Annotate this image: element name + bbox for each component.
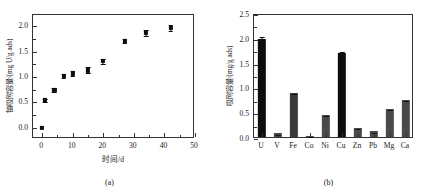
panel-b-error-cap (340, 52, 345, 53)
panel-b-y-tick-label: 2.0 (219, 34, 249, 43)
panel-a-error-cap (122, 43, 127, 44)
panel-b-y-tick (254, 15, 258, 16)
panel-a-x-tick (134, 133, 135, 137)
panel-a-x-tick (103, 133, 104, 137)
panel-b-category-label: Pb (369, 141, 377, 150)
panel-a-y-minor-tick (33, 115, 36, 116)
panel-b-y-minor-tick (254, 102, 257, 103)
panel-a-x-minor-tick (88, 135, 89, 138)
panel-b-bar (258, 39, 266, 137)
panel-a-y-minor-tick (33, 64, 36, 65)
panel-a-y-tick-label: 1.0 (0, 72, 28, 81)
panel-a-error-cap (144, 36, 149, 37)
panel-b-error-cap (292, 94, 297, 95)
panel-b-error-cap (324, 116, 329, 117)
panel-b-y-tick-label: 2.5 (219, 10, 249, 19)
panel-a-y-tick (33, 77, 37, 78)
panel-a-error-cap (101, 64, 106, 65)
panel-b-error-cap (404, 101, 409, 102)
panel-b-error-cap (356, 129, 361, 130)
panel-b-x-tick (262, 133, 263, 137)
panel-b-category-label: Ca (401, 141, 409, 150)
panel-a-y-tick-label: 2.0 (0, 21, 28, 30)
panel-b-y-minor-tick (254, 27, 257, 28)
panel-b-x-tick (294, 133, 295, 137)
panel-a-x-axis-title: 时间/d (32, 153, 194, 164)
panel-a-error-cap (168, 31, 173, 32)
panel-a-data-point (101, 59, 105, 63)
panel-b-category-label: Ni (321, 141, 329, 150)
panel-b-y-minor-tick (254, 127, 257, 128)
panel-a-x-tick-label: 0 (39, 141, 43, 150)
panel-a-y-tick-label: 0.0 (0, 122, 28, 131)
panel-b-error-cap (260, 37, 265, 38)
panel-b-x-tick (406, 133, 407, 137)
panel-a-data-point (144, 31, 148, 35)
panel-a-x-tick-label: 10 (68, 141, 76, 150)
panel-a-data-point (61, 74, 65, 78)
panel-a-y-minor-tick (33, 90, 36, 91)
panel-b-y-tick-label: 0.5 (219, 109, 249, 118)
panel-b-y-tick-label: 1.5 (219, 59, 249, 68)
panel-b-plot-area (253, 14, 413, 138)
panel-a-data-point (40, 126, 44, 130)
panel-b-x-tick (326, 133, 327, 137)
panel-b-y-minor-tick (254, 77, 257, 78)
panel-a-data-point (123, 39, 127, 43)
panel-b-x-tick (390, 133, 391, 137)
panel-b-error-cap (388, 110, 393, 111)
panel-b-category-label: Mg (384, 141, 395, 150)
panel-a-x-tick-label: 40 (160, 141, 168, 150)
panel-a-x-tick (42, 133, 43, 137)
panel-a-error-cap (86, 73, 91, 74)
panel-b-error-cap (308, 137, 313, 138)
panel-b-bar (402, 100, 410, 137)
figure-container: 铀吸附容量/(mg U/g ads) 时间/d (a) 0.00.51.01.5… (0, 0, 438, 191)
panel-b-x-tick (374, 133, 375, 137)
panel-a-data-point (86, 68, 90, 72)
panel-b-y-minor-tick (254, 52, 257, 53)
panel-a-y-tick (33, 102, 37, 103)
panel-b-bar (338, 53, 346, 137)
panel-a-x-minor-tick (119, 135, 120, 138)
panel-a-x-tick-label: 30 (129, 141, 137, 150)
panel-b-category-label: Fe (289, 141, 297, 150)
panel-a-x-minor-tick (180, 135, 181, 138)
panel-a-x-tick-label: 50 (190, 141, 198, 150)
panel-a-data-point (71, 71, 75, 75)
panel-b-x-tick (358, 133, 359, 137)
panel-b-y-tick-label: 1.0 (219, 84, 249, 93)
panel-b-category-label: Co (305, 141, 314, 150)
panel-b-x-tick (342, 133, 343, 137)
panel-b-caption: (b) (219, 178, 438, 187)
panel-b-bar (290, 93, 298, 137)
panel-a-x-tick-label: 20 (99, 141, 107, 150)
panel-b-category-label: Zn (353, 141, 361, 150)
panel-a-data-point (43, 98, 47, 102)
panel-a-y-tick (33, 26, 37, 27)
panel-b-x-tick (278, 133, 279, 137)
panel-a-x-minor-tick (149, 135, 150, 138)
panel-a: 铀吸附容量/(mg U/g ads) 时间/d (a) 0.00.51.01.5… (0, 0, 219, 191)
panel-b-y-tick (254, 139, 258, 140)
panel-b-y-tick-label: 0.0 (219, 134, 249, 143)
panel-a-data-point (52, 88, 56, 92)
panel-a-x-tick (73, 133, 74, 137)
panel-a-x-tick (195, 133, 196, 137)
panel-a-data-point (168, 26, 172, 30)
panel-b-category-label: V (274, 141, 279, 150)
panel-a-y-tick (33, 52, 37, 53)
panel-a-caption: (a) (0, 178, 219, 187)
panel-b-x-tick (310, 133, 311, 137)
panel-a-x-minor-tick (57, 135, 58, 138)
panel-a-y-tick-label: 1.5 (0, 46, 28, 55)
panel-a-error-cap (61, 78, 66, 79)
panel-a-y-tick-label: 0.5 (0, 97, 28, 106)
panel-b-category-label: Cu (337, 141, 346, 150)
panel-b-category-label: U (258, 141, 263, 150)
panel-a-error-cap (52, 92, 57, 93)
panel-a-x-tick (164, 133, 165, 137)
panel-b: 吸附容量/(mg/g ads) (b) 0.00.51.01.52.02.5UV… (219, 0, 438, 191)
panel-a-y-minor-tick (33, 39, 36, 40)
panel-a-error-cap (70, 76, 75, 77)
